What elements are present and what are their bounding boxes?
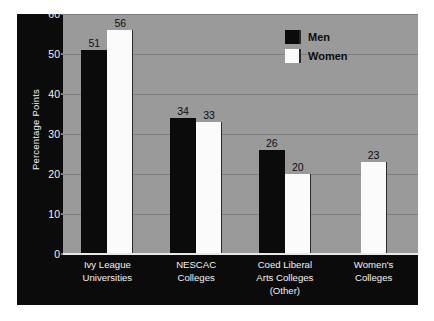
bar-value-label: 20 [285, 161, 311, 173]
bar-women[interactable] [107, 30, 133, 254]
legend-swatch-women-icon [285, 49, 301, 63]
legend-label: Women [308, 50, 348, 62]
legend-item-men[interactable]: Men [285, 28, 348, 45]
bar-value-label: 33 [196, 109, 222, 121]
bar-men[interactable] [170, 118, 196, 254]
plot-area: 51563433262023 [63, 14, 418, 254]
bar-value-label: 23 [361, 149, 387, 161]
legend-swatch-men-icon [285, 30, 301, 44]
x-category-label: NESCAC Colleges [152, 258, 241, 284]
y-tick-label: 50 [34, 48, 60, 60]
y-tick-label: 60 [34, 8, 60, 20]
bar-men[interactable] [81, 50, 107, 254]
bar-value-label: 26 [259, 137, 285, 149]
y-axis-ticks: 0102030405060 [34, 14, 60, 305]
bar-group: 5156 [63, 14, 152, 254]
bar-value-label: 56 [107, 17, 133, 29]
x-axis-labels: Ivy League UniversitiesNESCAC CollegesCo… [63, 258, 418, 305]
bar-men[interactable] [259, 150, 285, 254]
chart-figure: Percentage Points 0102030405060 51563433… [0, 0, 434, 321]
bar-women[interactable] [361, 162, 387, 254]
bar-women[interactable] [196, 122, 222, 254]
chart-panel: Percentage Points 0102030405060 51563433… [17, 14, 418, 305]
legend-item-women[interactable]: Women [285, 47, 348, 64]
legend-label: Men [308, 31, 330, 43]
x-axis-baseline [63, 253, 418, 255]
y-tick-label: 30 [34, 128, 60, 140]
x-category-label: Women's Colleges [329, 258, 418, 284]
x-category-label: Ivy League Universities [63, 258, 152, 284]
x-category-label: Coed Liberal Arts Colleges (Other) [241, 258, 330, 297]
bar-women[interactable] [285, 174, 311, 254]
y-tick-label: 20 [34, 168, 60, 180]
y-tick-label: 0 [34, 248, 60, 260]
bar-group: 3433 [152, 14, 241, 254]
bar-value-label: 34 [170, 105, 196, 117]
y-tick-label: 10 [34, 208, 60, 220]
bar-value-label: 51 [81, 37, 107, 49]
chart-legend: MenWomen [285, 28, 348, 66]
y-tick-label: 40 [34, 88, 60, 100]
